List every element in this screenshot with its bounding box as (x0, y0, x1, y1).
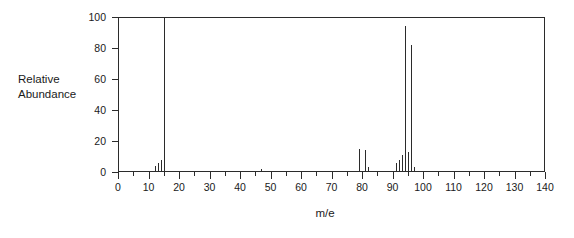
spectrum-peak (359, 149, 360, 172)
x-axis-major-tick (362, 172, 363, 179)
x-axis-tick-label: 140 (528, 181, 562, 193)
x-axis-major-tick (179, 172, 180, 179)
x-axis-tick-label: 130 (498, 181, 532, 193)
x-axis-minor-tick (499, 172, 500, 176)
x-axis-tick-label: 100 (406, 181, 440, 193)
spectrum-peak (368, 167, 369, 172)
x-axis-tick-label: 60 (284, 181, 318, 193)
x-axis-tick-label: 80 (345, 181, 379, 193)
x-axis-minor-tick (438, 172, 439, 176)
spectrum-peak (396, 163, 397, 172)
spectrum-peak (408, 152, 409, 172)
x-axis-major-tick (545, 172, 546, 179)
x-axis-title-label: m/e (315, 207, 334, 219)
spectrum-peak (405, 26, 406, 172)
x-axis-tick-label: 0 (101, 181, 135, 193)
y-axis-tick-label: 0 (76, 167, 106, 177)
x-axis-major-tick (423, 172, 424, 179)
x-axis-minor-tick (164, 172, 165, 176)
x-axis-major-tick (301, 172, 302, 179)
x-axis-minor-tick (530, 172, 531, 176)
x-axis-tick-label: 120 (467, 181, 501, 193)
y-axis-tick-label: 40 (76, 105, 106, 115)
x-axis-major-tick (240, 172, 241, 179)
x-axis-minor-tick (286, 172, 287, 176)
y-axis-tick-label: 100 (76, 12, 106, 22)
spectrum-peak (155, 166, 156, 172)
x-axis-tick-label: 30 (193, 181, 227, 193)
x-axis-minor-tick (225, 172, 226, 176)
x-axis-major-tick (118, 172, 119, 179)
x-axis-minor-tick (469, 172, 470, 176)
x-axis-tick-label: 10 (132, 181, 166, 193)
x-axis-major-tick (149, 172, 150, 179)
x-axis-major-tick (210, 172, 211, 179)
spectrum-peak (399, 160, 400, 172)
x-axis-major-tick (393, 172, 394, 179)
x-axis-minor-tick (316, 172, 317, 176)
x-axis-major-tick (332, 172, 333, 179)
spectrum-peak (261, 169, 262, 172)
x-axis-major-tick (484, 172, 485, 179)
x-axis-tick-label: 90 (376, 181, 410, 193)
x-axis-major-tick (515, 172, 516, 179)
x-axis-tick-label: 50 (254, 181, 288, 193)
x-axis-tick-label: 20 (162, 181, 196, 193)
x-axis-major-tick (271, 172, 272, 179)
spectrum-peak (161, 160, 162, 172)
x-axis-tick-label: 110 (437, 181, 471, 193)
spectrum-peak (402, 155, 403, 172)
mass-spectrum-figure: Relative Abundance 020406080100 01020304… (0, 0, 574, 238)
y-axis-tick-label: 20 (76, 136, 106, 146)
x-axis-minor-tick (194, 172, 195, 176)
spectrum-peak (414, 167, 415, 172)
plot-area (118, 17, 545, 172)
x-axis-minor-tick (408, 172, 409, 176)
spectrum-peak (164, 17, 165, 172)
y-axis-tick-label: 60 (76, 74, 106, 84)
spectrum-peak (365, 150, 366, 172)
x-axis-minor-tick (347, 172, 348, 176)
x-axis-major-tick (454, 172, 455, 179)
x-axis-minor-tick (133, 172, 134, 176)
x-axis-tick-label: 70 (315, 181, 349, 193)
x-axis-minor-tick (255, 172, 256, 176)
y-axis-tick-label: 80 (76, 43, 106, 53)
x-axis-tick-label: 40 (223, 181, 257, 193)
spectrum-peak (411, 45, 412, 172)
x-axis-title: m/e (0, 207, 574, 219)
y-axis-title-line-2: Abundance (18, 87, 98, 102)
spectrum-peak (158, 163, 159, 172)
x-axis-minor-tick (377, 172, 378, 176)
